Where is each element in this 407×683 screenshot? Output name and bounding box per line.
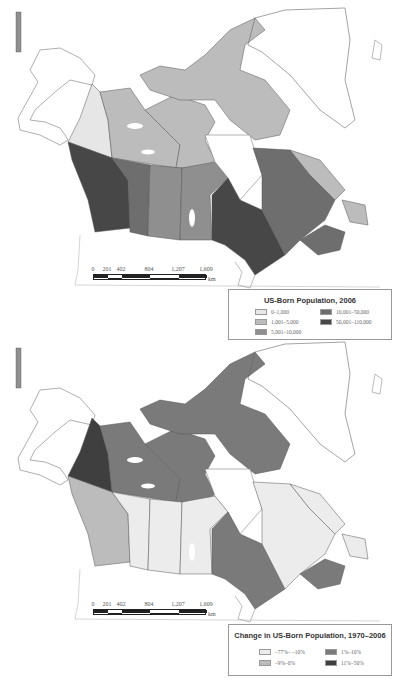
legend-item: 5,001–10,000: [255, 329, 301, 335]
legend-label: 0–1,000: [271, 309, 289, 315]
scale-bar-graphic: [93, 274, 206, 280]
scale-tick: 1,609: [199, 601, 213, 607]
scale-tick: 201: [103, 266, 112, 272]
scale-tick: 804: [145, 601, 154, 607]
legend-item: 50,001–110,000: [320, 319, 372, 325]
legend-item: 0–1,000: [255, 309, 289, 315]
region-saskatchewan: [148, 165, 182, 240]
scale-unit: km: [208, 611, 216, 617]
region-newfoundland: [342, 200, 368, 225]
choropleth-map-change: [0, 340, 407, 630]
scale-tick: 0: [92, 601, 95, 607]
scale-bar: 0 201 402 804 1,207 1,609 km: [93, 601, 263, 615]
lake-winnipeg: [189, 209, 195, 227]
scale-unit: km: [208, 276, 216, 282]
legend-title: US-Born Population, 2006: [229, 296, 391, 305]
scale-tick: 402: [117, 266, 126, 272]
legend-label: –77%– –10%: [275, 649, 305, 655]
great-slave-lake: [141, 484, 155, 489]
legend-swatch: [255, 309, 267, 315]
legend-item: –77%– –10%: [259, 649, 305, 655]
legend-label: 1%–10%: [341, 649, 361, 655]
legend-item: –9%–0%: [259, 660, 295, 666]
scale-tick: 201: [103, 601, 112, 607]
map-panel-change-1970-2006: 0 201 402 804 1,207 1,609 km Change in U…: [0, 340, 407, 683]
scale-tick: 1,207: [171, 266, 185, 272]
legend-item: 11%–50%: [325, 660, 364, 666]
legend-swatch: [259, 660, 271, 666]
legend-label: –9%–0%: [275, 660, 295, 666]
lake-winnipeg: [189, 543, 195, 561]
scale-tick: 0: [92, 266, 95, 272]
scale-tick: 1,207: [171, 601, 185, 607]
legend-label: 1,001–5,000: [271, 319, 299, 325]
scale-bar: 0 201 402 804 1,207 1,609 km: [93, 266, 263, 280]
iceland-outline: [372, 374, 382, 394]
iceland-outline: [372, 40, 382, 60]
legend-swatch: [320, 309, 332, 315]
legend-change-1970-2006: Change in US-Born Population, 1970–2006 …: [228, 624, 392, 676]
legend-us-born-2006: US-Born Population, 2006 0–1,000 1,001–5…: [228, 289, 392, 340]
scale-bar-graphic: [93, 609, 206, 615]
region-newfoundland: [342, 534, 368, 559]
nunavik-inset: [16, 348, 21, 388]
scale-bar-ticks: 0 201 402 804 1,207 1,609: [93, 266, 263, 274]
legend-label: 50,001–110,000: [336, 319, 372, 325]
scale-tick: 804: [145, 266, 154, 272]
legend-label: 5,001–10,000: [271, 329, 301, 335]
scale-tick: 1,609: [199, 266, 213, 272]
region-saskatchewan: [148, 499, 182, 574]
legend-swatch: [325, 660, 337, 666]
legend-swatch: [320, 319, 332, 325]
great-bear-lake: [127, 457, 143, 463]
scale-bar-ticks: 0 201 402 804 1,207 1,609: [93, 601, 263, 609]
nunavik-inset: [16, 12, 21, 52]
legend-item: 10,001–50,000: [320, 309, 369, 315]
great-bear-lake: [127, 123, 143, 129]
legend-item: 1%–10%: [325, 649, 361, 655]
legend-title: Change in US-Born Population, 1970–2006: [229, 631, 391, 640]
legend-swatch: [325, 649, 337, 655]
choropleth-map-2006: [0, 0, 407, 290]
great-slave-lake: [141, 150, 155, 155]
map-panel-us-born-2006: 0 201 402 804 1,207 1,609 km US-Born Pop…: [0, 0, 407, 345]
legend-swatch: [259, 649, 271, 655]
legend-label: 10,001–50,000: [336, 309, 369, 315]
legend-label: 11%–50%: [341, 660, 364, 666]
legend-swatch: [255, 329, 267, 335]
scale-tick: 402: [117, 601, 126, 607]
legend-item: 1,001–5,000: [255, 319, 299, 325]
legend-swatch: [255, 319, 267, 325]
